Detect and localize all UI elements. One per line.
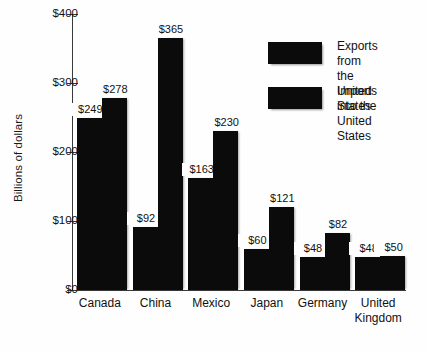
bar[interactable] bbox=[355, 257, 380, 290]
category-label: Mexico bbox=[183, 296, 239, 311]
bar[interactable] bbox=[158, 38, 183, 290]
legend-label: Imports into the United States bbox=[337, 84, 377, 144]
bar-value-label: $121 bbox=[263, 192, 302, 205]
x-axis-line bbox=[72, 290, 406, 291]
bar[interactable] bbox=[188, 178, 213, 290]
trade-bar-chart: Billions of dollars $0$100$200$300$400 $… bbox=[0, 0, 427, 352]
category-label: Japan bbox=[239, 296, 295, 311]
bar[interactable] bbox=[77, 118, 102, 290]
bar[interactable] bbox=[133, 227, 158, 290]
bar-value-label: $82 bbox=[319, 218, 358, 231]
bar-group: $249$278 bbox=[77, 14, 127, 290]
category-label: China bbox=[128, 296, 184, 311]
legend-swatch bbox=[268, 42, 322, 64]
y-axis-title: Billions of dollars bbox=[12, 78, 24, 238]
bar-group: $163$230 bbox=[188, 14, 238, 290]
category-label: Germany bbox=[295, 296, 351, 311]
bar-value-label: $50 bbox=[374, 241, 413, 254]
bar[interactable] bbox=[300, 257, 325, 290]
category-label: Canada bbox=[72, 296, 128, 311]
bar[interactable] bbox=[244, 249, 269, 290]
bar[interactable] bbox=[380, 256, 405, 291]
legend-swatch bbox=[268, 87, 322, 109]
legend-item[interactable]: Imports into the United States bbox=[268, 87, 377, 144]
bar-group: $92$365 bbox=[133, 14, 183, 290]
bar[interactable] bbox=[269, 207, 294, 290]
bar[interactable] bbox=[213, 131, 238, 290]
bar-value-label: $365 bbox=[152, 23, 191, 36]
bar[interactable] bbox=[325, 233, 350, 290]
bar-value-label: $230 bbox=[207, 116, 246, 129]
bar-value-label: $278 bbox=[96, 83, 135, 96]
bar[interactable] bbox=[102, 98, 127, 290]
category-label: United Kingdom bbox=[350, 296, 406, 326]
